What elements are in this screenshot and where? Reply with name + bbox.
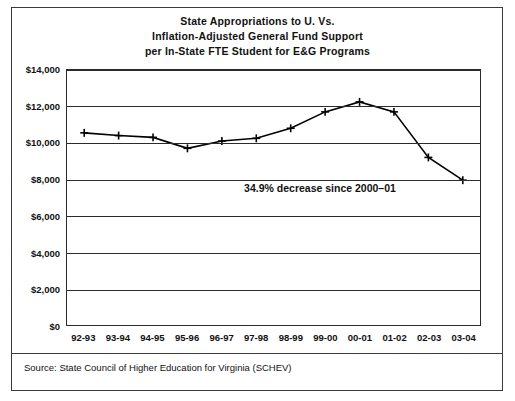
series-line [67, 70, 480, 325]
x-tick-label: 98-99 [279, 332, 303, 343]
source-divider [12, 353, 502, 354]
data-point-marker [80, 129, 88, 137]
gridline [67, 70, 480, 71]
data-point-marker [287, 124, 295, 132]
y-tick-label: $14,000 [26, 64, 60, 75]
data-point-marker [321, 108, 329, 116]
chart-title-line-1: State Appropriations to U. Vs. [0, 14, 515, 29]
data-point-marker [115, 132, 123, 140]
y-tick-label: $4,000 [31, 247, 60, 258]
gridline [67, 253, 480, 254]
data-line [84, 102, 463, 180]
gridline [67, 216, 480, 217]
chart-title-line-3: per In-State FTE Student for E&G Program… [0, 44, 515, 59]
x-tick-label: 93-94 [106, 332, 130, 343]
x-tick-label: 92-93 [71, 332, 95, 343]
gridline [67, 106, 480, 107]
gridline [67, 143, 480, 144]
data-point-marker [183, 144, 191, 152]
plot-area [66, 69, 481, 326]
data-point-marker [356, 98, 364, 106]
x-tick-label: 03-04 [452, 332, 476, 343]
data-point-marker [149, 133, 157, 141]
x-tick-label: 01-02 [382, 332, 406, 343]
y-tick-label: $8,000 [31, 174, 60, 185]
x-tick-label: 97-98 [244, 332, 268, 343]
x-tick-label: 02-03 [417, 332, 441, 343]
chart-figure: State Appropriations to U. Vs. Inflation… [0, 0, 515, 401]
y-tick-label: $6,000 [31, 210, 60, 221]
x-tick-label: 95-96 [175, 332, 199, 343]
y-axis-tick-labels: $14,000$12,000$10,000$8,000$6,000$4,000$… [0, 69, 60, 326]
gridline [67, 180, 480, 181]
y-tick-label: $12,000 [26, 100, 60, 111]
x-tick-label: 94-95 [140, 332, 164, 343]
chart-title-line-2: Inflation-Adjusted General Fund Support [0, 29, 515, 44]
x-tick-label: 99-00 [313, 332, 337, 343]
x-tick-label: 00-01 [348, 332, 372, 343]
y-tick-label: $0 [49, 321, 60, 332]
decrease-annotation: 34.9% decrease since 2000–01 [244, 182, 396, 194]
x-tick-label: 96-97 [209, 332, 233, 343]
source-note: Source: State Council of Higher Educatio… [24, 362, 292, 373]
y-tick-label: $10,000 [26, 137, 60, 148]
data-point-marker [252, 134, 260, 142]
y-tick-label: $2,000 [31, 284, 60, 295]
gridline [67, 290, 480, 291]
chart-title: State Appropriations to U. Vs. Inflation… [0, 14, 515, 59]
x-axis-tick-labels: 92-9393-9494-9595-9696-9797-9898-9999-00… [66, 332, 481, 348]
